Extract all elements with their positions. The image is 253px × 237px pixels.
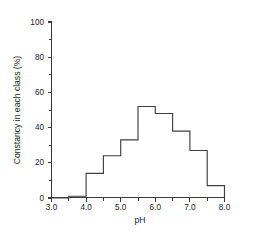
x-tick-label-3: 3.0 [46,203,58,212]
y-tick-label-20: 20 [35,158,45,167]
y-tick-label-40: 40 [35,123,45,132]
chart-background [0,0,253,237]
x-tick-label-8: 8.0 [219,203,231,212]
y-axis-title: Constancy in each class (%) [12,56,22,165]
y-tick-label-0: 0 [39,194,44,203]
x-axis-title: pH [135,215,146,225]
x-tick-label-4: 4.0 [80,203,92,212]
y-tick-label-80: 80 [35,53,45,62]
x-tick-label-5: 5.0 [115,203,127,212]
step-histogram-plot: 0 20 40 60 80 100 3.0 4.0 5.0 6.0 7.0 8.… [0,0,253,237]
chart-figure: 0 20 40 60 80 100 3.0 4.0 5.0 6.0 7.0 8.… [0,0,253,237]
y-tick-label-60: 60 [35,88,45,97]
x-tick-label-6: 6.0 [150,203,162,212]
x-tick-label-7: 7.0 [184,203,196,212]
y-tick-label-100: 100 [30,18,44,27]
